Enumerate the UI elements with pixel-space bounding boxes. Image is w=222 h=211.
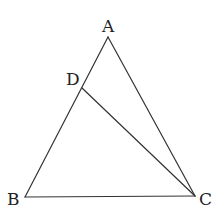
segment-bc <box>25 196 195 197</box>
segment-dc <box>82 88 195 196</box>
segment-ac <box>108 37 195 196</box>
segment-ab <box>25 37 108 197</box>
label-b: B <box>7 189 20 209</box>
triangle-diagram: A D B C <box>0 0 222 211</box>
label-d: D <box>66 69 80 89</box>
label-c: C <box>199 189 212 209</box>
label-a: A <box>101 16 115 36</box>
